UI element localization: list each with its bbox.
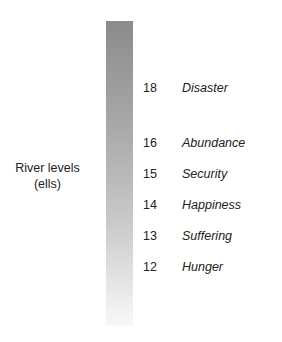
axis-label: River levels (ells) — [0, 160, 95, 192]
axis-label-line1: River levels — [0, 160, 95, 176]
level-meaning-suffering: Suffering — [182, 229, 232, 243]
level-value-16: 16 — [143, 136, 157, 150]
river-level-gradient-bar — [106, 21, 133, 326]
level-value-15: 15 — [143, 167, 157, 181]
axis-label-line2: (ells) — [0, 176, 95, 192]
level-meaning-security: Security — [182, 167, 227, 181]
level-meaning-happiness: Happiness — [182, 198, 241, 212]
level-value-14: 14 — [143, 198, 157, 212]
level-value-12: 12 — [143, 260, 157, 274]
level-meaning-abundance: Abundance — [182, 136, 245, 150]
level-value-18: 18 — [143, 81, 157, 95]
level-value-13: 13 — [143, 229, 157, 243]
level-meaning-hunger: Hunger — [182, 260, 223, 274]
level-meaning-disaster: Disaster — [182, 81, 228, 95]
